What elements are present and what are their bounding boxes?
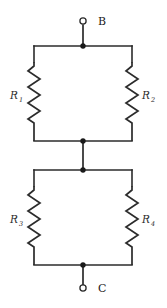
- junction-dot-top-rail: [80, 43, 85, 48]
- resistor-r3-group: R 3: [9, 170, 40, 265]
- resistor-r4-zigzag-symbol: [126, 186, 138, 265]
- resistor-r3-subscript: 3: [19, 220, 23, 228]
- resistor-r4-group: R 4: [126, 170, 155, 265]
- resistor-r3-label: R: [9, 213, 18, 225]
- resistor-r4-subscript: 4: [150, 220, 155, 228]
- terminal-c-label: C: [98, 282, 106, 295]
- upper-parallel-block: R 1 R 2: [9, 46, 155, 141]
- resistor-r4-label: R: [141, 213, 150, 225]
- terminal-b-label: B: [98, 15, 106, 28]
- resistor-r2-label: R: [141, 89, 150, 101]
- lower-parallel-block: R 3 R 4: [9, 170, 155, 265]
- terminal-c-group: C: [80, 265, 107, 295]
- resistor-r1-label: R: [9, 89, 18, 101]
- junction-dot-mid-lower: [80, 167, 85, 172]
- resistor-r2-subscript: 2: [150, 96, 155, 104]
- resistor-r2-zigzag-symbol: [126, 62, 138, 141]
- circuit-diagram: B R 1 R 2: [0, 0, 167, 308]
- junction-dot-mid-upper: [80, 138, 85, 143]
- resistor-r1-zigzag-symbol: [28, 62, 40, 141]
- resistor-r1-group: R 1: [9, 46, 40, 141]
- resistor-r2-group: R 2: [126, 46, 155, 141]
- resistor-r3-zigzag-symbol: [28, 186, 40, 265]
- junction-dot-bottom-rail: [80, 262, 85, 267]
- resistor-r1-subscript: 1: [19, 96, 23, 104]
- circuit-schematic-canvas: B R 1 R 2: [0, 0, 167, 308]
- terminal-b-open-circle-icon: [80, 18, 86, 24]
- terminal-b-group: B: [80, 15, 106, 46]
- terminal-c-open-circle-icon: [80, 285, 86, 291]
